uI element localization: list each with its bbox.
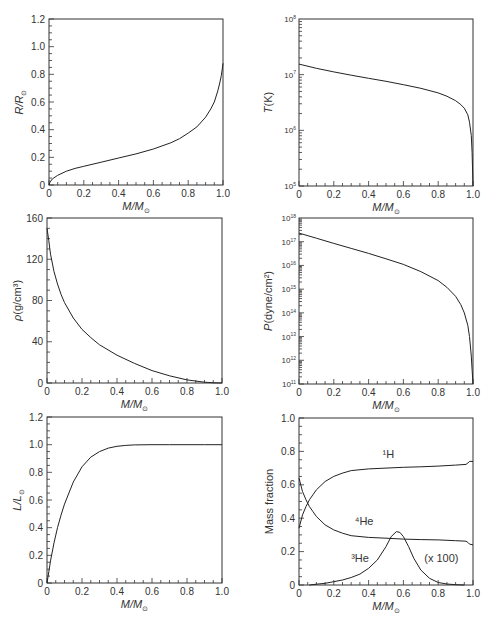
y-tick-label: 1013	[282, 332, 297, 341]
x-tick-label: 0.8	[181, 188, 195, 199]
x-tick-label: 0.4	[362, 189, 376, 200]
y-tick-label: 1011	[282, 380, 296, 389]
x-tick-label: 0.8	[431, 189, 445, 200]
x-tick-label: 0	[44, 386, 50, 397]
x-tick-label: 0.2	[75, 586, 89, 597]
y-tick-label: 1018	[282, 214, 297, 223]
data-series-line	[47, 228, 222, 383]
y-tick-label: 0.6	[29, 495, 43, 506]
y-axis-label: L/L⊙	[11, 489, 25, 510]
x-tick-label: 0	[296, 588, 302, 599]
y-tick-label: 1.0	[281, 413, 295, 424]
y-tick-label: 40	[32, 336, 44, 347]
y-tick-label: 0	[39, 180, 45, 191]
x-tick-label: 0	[44, 586, 50, 597]
y-tick-label: 0	[289, 580, 295, 591]
series-annotation: (x 100)	[424, 552, 458, 564]
y-tick-label: 0.6	[31, 97, 45, 108]
x-tick-label: 0.6	[145, 386, 159, 397]
y-tick-label: 1.0	[31, 41, 45, 52]
x-axis-label: M/M⊙	[372, 399, 399, 413]
panel-density: 00.20.40.60.81.004080120160M/M⊙ρ(g/cm³)	[11, 213, 229, 412]
panel-composition: 00.20.40.60.81.000.20.40.60.81.0M/M⊙Mass…	[263, 413, 480, 614]
y-tick-label: 120	[26, 254, 43, 265]
x-tick-label: 1.0	[215, 586, 229, 597]
y-tick-label: 0.2	[31, 152, 45, 163]
y-tick-label: 0.2	[281, 546, 295, 557]
data-series-line	[299, 64, 473, 186]
x-tick-label: 0.8	[180, 386, 194, 397]
x-tick-label: 0.2	[327, 588, 341, 599]
y-tick-label: 108	[284, 15, 296, 24]
x-tick-label: 0.6	[396, 387, 410, 398]
x-tick-label: 0	[46, 188, 52, 199]
x-tick-label: 0.6	[146, 188, 160, 199]
x-axis-label: M/M⊙	[121, 398, 148, 412]
y-tick-label: 0.4	[31, 124, 45, 135]
plot-frame	[299, 218, 473, 384]
y-tick-label: 0.8	[29, 467, 43, 478]
data-series-line	[299, 233, 473, 384]
x-tick-label: 0.4	[110, 386, 124, 397]
data-series-line	[47, 445, 222, 583]
data-series-line	[49, 63, 223, 185]
y-tick-label: 1016	[282, 261, 297, 270]
x-tick-label: 0.8	[180, 586, 194, 597]
plot-frame	[49, 19, 223, 185]
x-tick-label: 0.4	[362, 387, 376, 398]
x-tick-label: 0.8	[431, 387, 445, 398]
x-tick-label: 0.6	[145, 586, 159, 597]
y-axis-label: R/R⊙	[13, 90, 27, 115]
y-tick-label: 107	[284, 70, 296, 79]
data-series-line	[299, 478, 473, 545]
y-tick-label: 1012	[282, 356, 297, 365]
x-tick-label: 0.6	[396, 189, 410, 200]
y-tick-label: 1014	[282, 309, 297, 318]
y-axis-label: T(K)	[262, 92, 274, 113]
y-tick-label: 0	[37, 378, 43, 389]
x-tick-label: 0.2	[77, 188, 91, 199]
y-tick-label: 1.2	[31, 14, 45, 25]
x-axis-label: M/M⊙	[372, 201, 399, 215]
y-tick-label: 0.2	[29, 550, 43, 561]
x-tick-label: 1.0	[216, 188, 230, 199]
y-axis-label: ρ(g/cm³)	[11, 280, 23, 322]
y-tick-label: 105	[284, 182, 296, 191]
y-tick-label: 1017	[282, 238, 297, 247]
series-annotation: ¹H	[383, 448, 395, 460]
panel-luminosity: 00.20.40.60.81.000.20.40.60.81.01.2M/M⊙L…	[11, 412, 229, 612]
panel-pressure: 00.20.40.60.81.0101110121013101410151016…	[262, 214, 480, 413]
panel-radius: 00.20.40.60.81.000.20.40.60.81.01.2M/M⊙R…	[13, 14, 230, 214]
x-tick-label: 0	[296, 189, 302, 200]
y-tick-label: 0.6	[281, 479, 295, 490]
series-annotation: ⁴He	[355, 515, 374, 527]
x-tick-label: 0.4	[362, 588, 376, 599]
y-tick-label: 106	[284, 126, 296, 135]
x-axis-label: M/M⊙	[372, 600, 399, 614]
series-annotation: ³He	[351, 552, 369, 564]
plot-frame	[47, 417, 222, 583]
panel-temperature: 00.20.40.60.81.0105106107108M/M⊙T(K)	[262, 15, 480, 215]
x-tick-label: 0.6	[396, 588, 410, 599]
x-tick-label: 0.8	[431, 588, 445, 599]
y-tick-label: 160	[26, 213, 43, 224]
y-tick-label: 0.4	[29, 522, 43, 533]
y-tick-label: 1015	[282, 285, 297, 294]
stellar-structure-figure: 00.20.40.60.81.000.20.40.60.81.01.2M/M⊙R…	[0, 0, 489, 617]
y-tick-label: 0.8	[31, 69, 45, 80]
x-tick-label: 1.0	[466, 588, 480, 599]
plot-frame	[47, 218, 222, 383]
x-axis-label: M/M⊙	[121, 598, 148, 612]
y-tick-label: 0.8	[281, 446, 295, 457]
y-axis-label: P(dyne/cm²)	[262, 271, 274, 331]
plot-frame	[299, 19, 473, 186]
y-tick-label: 80	[32, 295, 44, 306]
y-tick-label: 0	[37, 578, 43, 589]
x-tick-label: 0.2	[75, 386, 89, 397]
x-tick-label: 0.4	[110, 586, 124, 597]
y-axis-label: Mass fraction	[263, 469, 275, 534]
x-tick-label: 0.2	[327, 189, 341, 200]
x-tick-label: 0.2	[327, 387, 341, 398]
x-tick-label: 0	[296, 387, 302, 398]
y-tick-label: 1.0	[29, 439, 43, 450]
